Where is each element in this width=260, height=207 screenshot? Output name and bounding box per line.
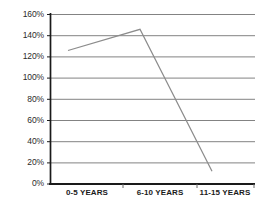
y-axis-label-120: 120% [2, 52, 44, 61]
y-axis-label-60: 60% [2, 116, 44, 125]
line-chart: 160% 140% 120% 100% 80% 60% 40% 20% 0% 0… [0, 0, 260, 207]
y-axis-label-160: 160% [2, 10, 44, 19]
x-axis-label-6-10-years: 6-10 YEARS [120, 188, 200, 197]
y-axis-label-40: 40% [2, 137, 44, 146]
y-axis-label-80: 80% [2, 95, 44, 104]
series-line-0 [68, 29, 212, 171]
y-axis-label-100: 100% [2, 73, 44, 82]
y-axis-label-0: 0% [2, 179, 44, 188]
x-axis-label-0-5-years: 0-5 YEARS [48, 188, 126, 197]
x-axis-label-11-15-years: 11-15 YEARS [190, 188, 260, 197]
y-axis-label-20: 20% [2, 158, 44, 167]
gridlines [50, 15, 255, 163]
y-axis-label-140: 140% [2, 31, 44, 40]
y-axis-ticks [47, 15, 50, 185]
